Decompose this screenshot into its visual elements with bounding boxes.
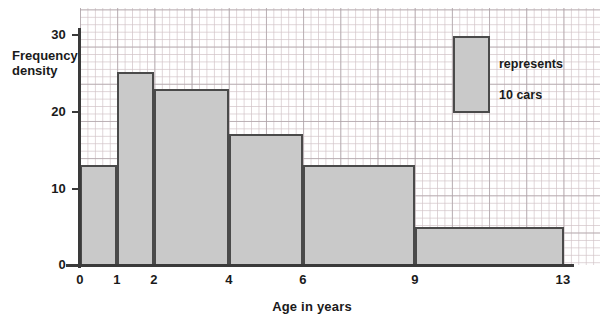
legend-label-line2: 10 cars — [499, 88, 563, 103]
histogram-bar — [229, 134, 303, 265]
x-axis-tick-label: 6 — [291, 272, 315, 287]
histogram-bar — [415, 227, 564, 265]
x-axis-tick-label: 9 — [403, 272, 427, 287]
y-axis-tick-label: 0 — [36, 257, 66, 272]
y-axis-tick — [72, 111, 81, 113]
y-axis-line — [78, 28, 81, 268]
y-axis-title-line1: Frequency — [12, 48, 78, 63]
histogram-bar — [80, 165, 117, 266]
legend-swatch — [453, 36, 490, 113]
legend-label-line1: represents — [499, 57, 563, 72]
x-axis-tick-label: 4 — [217, 272, 241, 287]
x-axis-title: Age in years — [232, 299, 392, 314]
x-axis-tick-label: 1 — [105, 272, 129, 287]
y-axis-tick — [72, 264, 81, 266]
histogram-bar — [154, 89, 228, 265]
y-axis-tick-label: 10 — [36, 181, 66, 196]
y-axis-tick — [72, 188, 81, 190]
y-axis-title-line2: density — [12, 63, 78, 78]
y-axis-tick — [72, 34, 81, 36]
y-axis-title: Frequency density — [12, 48, 78, 78]
x-axis-line — [66, 264, 574, 267]
x-axis-tick-label: 13 — [551, 272, 575, 287]
histogram-bar — [117, 72, 154, 265]
histogram-bar — [303, 165, 415, 265]
legend-label: represents 10 cars — [499, 42, 563, 118]
x-axis-tick-label: 0 — [68, 272, 92, 287]
histogram-figure: 0 10 20 30 0 1 2 4 6 9 13 Frequency dens… — [0, 0, 609, 322]
y-axis-tick-label: 20 — [36, 104, 66, 119]
x-axis-tick-label: 2 — [142, 272, 166, 287]
y-axis-tick-label: 30 — [36, 27, 66, 42]
